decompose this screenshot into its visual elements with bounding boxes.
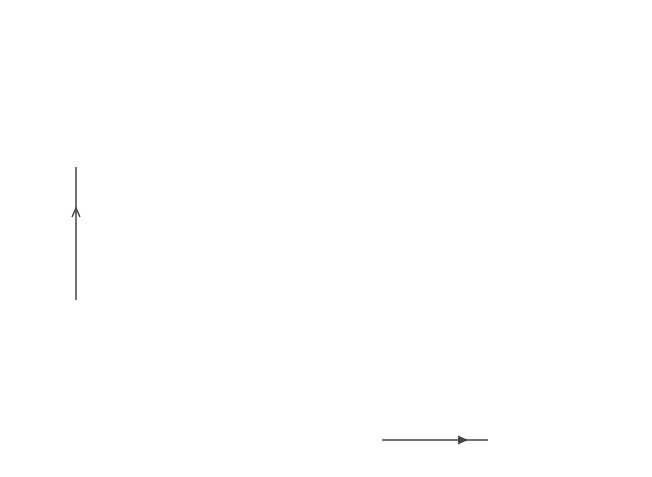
y-axis-arrow-icon xyxy=(72,167,80,300)
radiation-absorption-chart xyxy=(0,0,652,477)
x-axis-arrow-icon xyxy=(382,436,488,444)
